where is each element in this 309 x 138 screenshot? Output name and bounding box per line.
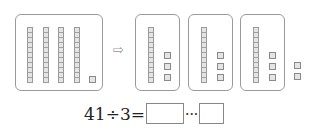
ellipsis: ··· xyxy=(185,106,198,122)
unit-cube-icon xyxy=(217,63,224,70)
remainder-unit-cube-icon xyxy=(294,62,301,69)
ten-rod-icon xyxy=(148,27,154,83)
ten-rod-icon xyxy=(201,27,207,83)
group-box-3 xyxy=(240,14,285,91)
unit-cube-icon xyxy=(217,74,224,81)
unit-cube-icon xyxy=(217,52,224,59)
unit-cube-icon xyxy=(269,74,276,81)
unit-cube-icon xyxy=(269,52,276,59)
equation-expression: 41÷3= xyxy=(84,104,145,124)
unit-cube-icon xyxy=(89,76,96,83)
division-equation: 41÷3= ··· xyxy=(84,103,224,124)
remainder-answer-box[interactable] xyxy=(199,103,224,124)
ten-rod-icon xyxy=(253,27,259,83)
unit-cube-icon xyxy=(164,63,171,70)
unit-cube-icon xyxy=(269,63,276,70)
group-box-1 xyxy=(135,14,180,91)
right-arrow-icon: ⇨ xyxy=(113,42,124,57)
quotient-answer-box[interactable] xyxy=(146,103,184,124)
unit-cube-icon xyxy=(164,52,171,59)
ten-rod-icon xyxy=(74,27,80,83)
ten-rod-icon xyxy=(43,27,49,83)
group-box-2 xyxy=(188,14,233,91)
remainder-unit-cube-icon xyxy=(294,73,301,80)
ten-rod-icon xyxy=(27,27,33,83)
ten-rod-icon xyxy=(58,27,64,83)
unit-cube-icon xyxy=(164,74,171,81)
base-ten-block-group-41 xyxy=(15,14,103,91)
